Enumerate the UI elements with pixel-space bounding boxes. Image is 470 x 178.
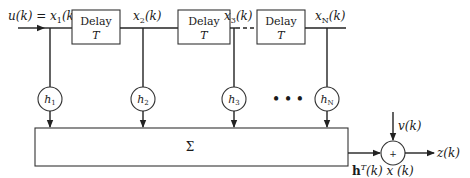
sigma-symbol: Σ bbox=[186, 140, 194, 154]
tap-N: hN bbox=[315, 28, 339, 127]
output-label: z(k) bbox=[436, 146, 460, 160]
delay-label: Delay bbox=[188, 15, 220, 28]
noise-label: v(k) bbox=[398, 119, 422, 133]
input-label: u(k) = x1(k) bbox=[8, 9, 79, 25]
tap-1: h1 bbox=[38, 28, 62, 127]
signal-label-xN: xN(k) bbox=[315, 9, 346, 25]
signal-label-x2: x2(k) bbox=[133, 9, 162, 25]
signal-label-x3: x3(k) bbox=[224, 9, 253, 25]
plus-symbol: + bbox=[389, 149, 397, 159]
inner-product-label: hT(k) x (k) bbox=[352, 163, 414, 178]
tap-2: h2 bbox=[131, 28, 155, 127]
fir-block-diagram: u(k) = x1(k) Delay T x2(k) Delay T x3(k)… bbox=[0, 0, 470, 178]
ellipsis: • • • bbox=[272, 92, 303, 106]
delay-label: Delay bbox=[265, 15, 297, 28]
delay-label: Delay bbox=[80, 15, 112, 28]
